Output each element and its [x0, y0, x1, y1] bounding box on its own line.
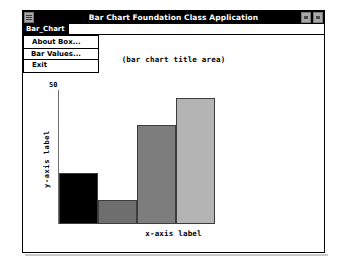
window-title: Bar Chart Foundation Class Application [89, 13, 259, 22]
plot-area [59, 90, 324, 224]
menu-bar-item-bar-chart[interactable]: Bar_Chart [23, 24, 69, 35]
window-controls [301, 12, 323, 23]
chart-bar [137, 125, 176, 224]
system-menu-icon[interactable] [24, 12, 34, 23]
maximize-button[interactable] [313, 12, 323, 23]
bar-chart-dropdown-menu: About Box... Bar Values... Exit [23, 35, 99, 73]
menu-item-bar-values[interactable]: Bar Values... [23, 48, 99, 60]
chart-bar [98, 200, 137, 224]
maximize-icon [316, 16, 320, 19]
x-axis-label: x-axis label [23, 229, 324, 238]
y-axis-label: y-axis label [43, 129, 51, 189]
menu-item-about-box[interactable]: About Box... [24, 37, 98, 48]
minimize-button[interactable] [301, 12, 311, 23]
menu-item-exit[interactable]: Exit [24, 60, 98, 71]
y-axis-max-tick-label: 50 [49, 81, 57, 89]
chart-bar [176, 98, 215, 224]
menu-bar: Bar_Chart [23, 24, 324, 35]
application-window: Bar Chart Foundation Class Application B… [22, 10, 325, 253]
title-bar[interactable]: Bar Chart Foundation Class Application [23, 11, 324, 24]
chart-bar [59, 173, 98, 224]
minimize-icon [304, 16, 308, 19]
